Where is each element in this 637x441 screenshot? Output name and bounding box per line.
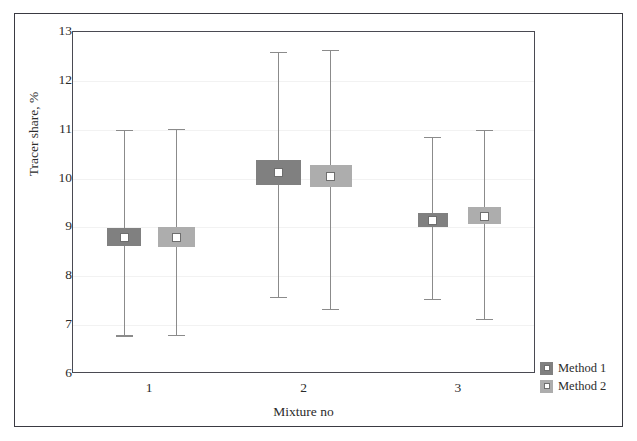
x-axis-tick-label: 2 xyxy=(284,380,324,396)
legend-swatch-icon xyxy=(540,362,553,375)
whisker-cap-upper xyxy=(476,130,493,131)
whisker-cap-lower xyxy=(322,309,339,310)
plot-area xyxy=(72,31,535,373)
legend-item-2[interactable]: Method 2 xyxy=(540,377,624,395)
whisker-cap-lower xyxy=(476,319,493,320)
legend-label: Method 2 xyxy=(558,379,606,394)
series-2 xyxy=(73,32,534,372)
y-axis-tick-label: 9 xyxy=(46,220,72,234)
whisker-line xyxy=(484,130,485,320)
mean-marker xyxy=(326,172,335,181)
legend-item-1[interactable]: Method 1 xyxy=(540,359,624,377)
mean-marker xyxy=(480,212,489,221)
whisker-cap-upper xyxy=(322,50,339,51)
whisker-cap-upper xyxy=(168,129,185,130)
y-axis-tick-label: 11 xyxy=(46,122,72,136)
legend-label: Method 1 xyxy=(558,361,606,376)
y-axis-tick-label: 10 xyxy=(46,171,72,185)
y-axis-title: Tracer share, % xyxy=(26,54,42,214)
y-axis-tick-labels: 131211109876 xyxy=(38,31,72,373)
chart-legend: Method 1Method 2 xyxy=(540,359,624,395)
x-axis-tick-label: 1 xyxy=(129,380,169,396)
x-axis-title: Mixture no xyxy=(72,404,535,420)
y-axis-tick-label: 8 xyxy=(46,269,72,283)
y-axis-tick-label: 13 xyxy=(46,24,72,38)
y-axis-tick-label: 7 xyxy=(46,317,72,331)
y-axis-tick-label: 6 xyxy=(46,366,72,380)
x-axis-tick-label: 3 xyxy=(438,380,478,396)
whisker-cap-lower xyxy=(168,335,185,336)
y-axis-tick-label: 12 xyxy=(46,73,72,87)
legend-swatch-icon xyxy=(540,380,553,393)
mean-marker xyxy=(172,233,181,242)
figure-canvas: 131211109876 Tracer share, % 123 Mixture… xyxy=(0,0,637,441)
